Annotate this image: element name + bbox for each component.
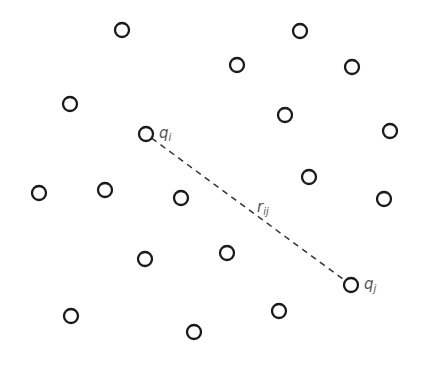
particle (278, 108, 292, 122)
particle (230, 58, 244, 72)
particle (64, 309, 78, 323)
distance-line-rij (152, 138, 346, 281)
particle (377, 192, 391, 206)
particle (174, 191, 188, 205)
particle-diagram: qi rij qj (0, 0, 423, 366)
particle (138, 252, 152, 266)
particle (345, 60, 359, 74)
particle (383, 124, 397, 138)
label-rij: rij (257, 198, 269, 217)
particle-qi (139, 127, 153, 141)
particle (115, 23, 129, 37)
particle (187, 325, 201, 339)
particle (293, 24, 307, 38)
particle (98, 183, 112, 197)
label-qi: qi (159, 124, 172, 143)
particle-group (32, 23, 397, 339)
particle (220, 246, 234, 260)
particle (63, 97, 77, 111)
particle (302, 170, 316, 184)
particle-qj (344, 278, 358, 292)
particle (272, 304, 286, 318)
label-qj: qj (364, 275, 377, 294)
particle (32, 186, 46, 200)
